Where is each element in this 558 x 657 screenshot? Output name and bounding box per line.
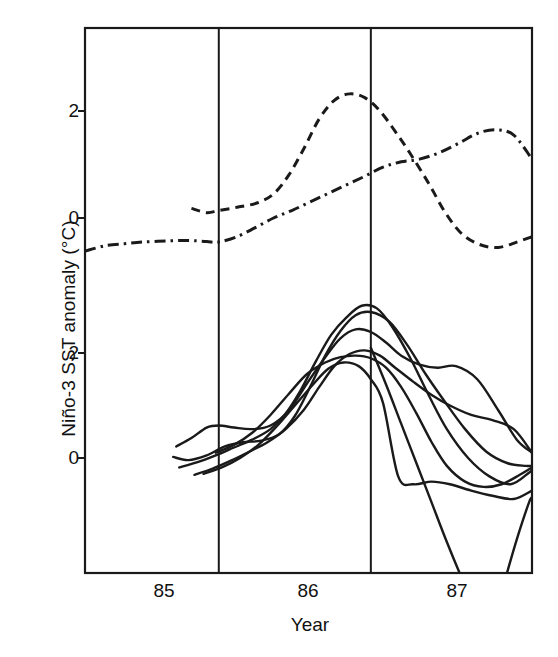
curve-dash-dot-observed [85, 130, 532, 251]
plot-frame [85, 28, 532, 573]
data-curves [85, 94, 532, 631]
year-gridlines [219, 28, 371, 573]
curve-dashed-observed [191, 94, 532, 248]
plot-area [0, 0, 558, 657]
curve-forecast-member-8 [492, 497, 532, 626]
curve-forecast-member-5 [216, 356, 532, 487]
curve-forecast-member-1 [176, 329, 532, 453]
curve-forecast-member-7 [371, 348, 523, 632]
curve-forecast-member-2 [173, 312, 532, 466]
curve-forecast-member-3 [179, 305, 532, 484]
nino3-sst-anomaly-figure: Niño-3 SST anomaly (°C) 2 0 2 0 85 86 87… [0, 0, 558, 657]
